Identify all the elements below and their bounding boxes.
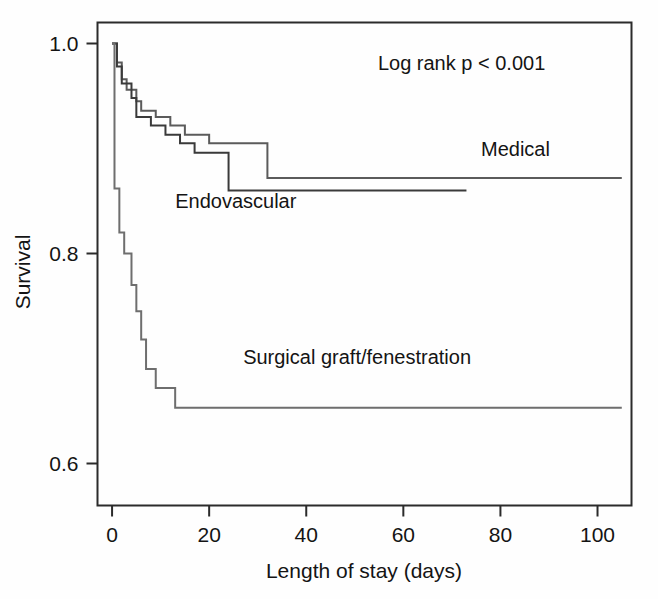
y-tick-label-0.6: 0.6 [49, 452, 78, 475]
x-tick-label-20: 20 [197, 523, 220, 546]
x-tick-label-60: 60 [392, 523, 415, 546]
y-tick-label-1.0: 1.0 [49, 32, 78, 55]
figure-container: 0.60.81.0 020406080100 MedicalEndovascul… [0, 0, 658, 599]
y-tick-label-0.8: 0.8 [49, 242, 78, 265]
x-axis-title: Length of stay (days) [266, 559, 462, 582]
y-axis-tick-labels: 0.60.81.0 [49, 32, 78, 475]
x-tick-label-0: 0 [106, 523, 118, 546]
x-tick-label-80: 80 [489, 523, 512, 546]
x-axis-tick-labels: 020406080100 [106, 523, 615, 546]
series-label-surgical-graft-fenestration: Surgical graft/fenestration [243, 346, 471, 368]
x-axis-ticks [112, 506, 597, 517]
series-label-medical: Medical [481, 138, 550, 160]
series-inline-labels: MedicalEndovascularSurgical graft/fenest… [175, 138, 550, 368]
x-tick-label-40: 40 [295, 523, 318, 546]
plot-frame [98, 23, 632, 506]
series-label-endovascular: Endovascular [175, 190, 297, 212]
survival-chart: 0.60.81.0 020406080100 MedicalEndovascul… [0, 0, 658, 599]
y-axis-title: Survival [11, 235, 34, 310]
log-rank-annotation: Log rank p < 0.001 [378, 52, 545, 74]
chart-annotations: Log rank p < 0.001 [378, 52, 545, 74]
y-axis-ticks [87, 44, 98, 464]
x-tick-label-100: 100 [580, 523, 615, 546]
